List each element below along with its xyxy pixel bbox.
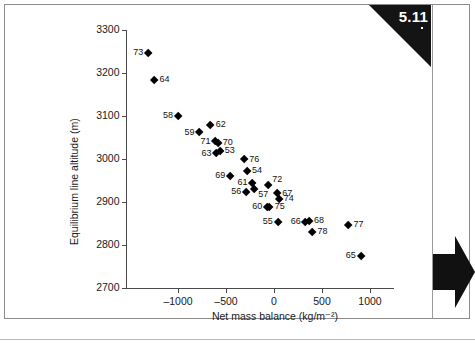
diamond-marker-icon bbox=[243, 167, 252, 176]
diamond-marker-icon bbox=[206, 120, 215, 129]
data-point-label: 63 bbox=[201, 149, 211, 158]
x-axis-title: Net mass balance (kg/m⁻²) bbox=[145, 310, 405, 322]
diamond-marker-icon bbox=[273, 218, 282, 227]
x-axis-line bbox=[126, 288, 395, 289]
data-point-label: 58 bbox=[163, 111, 173, 120]
data-point-label: 56 bbox=[231, 187, 241, 196]
y-tick-label-2700: 2700 bbox=[78, 281, 120, 293]
x-tick-label-0: 0 bbox=[249, 295, 299, 307]
x-tick--1000 bbox=[178, 289, 179, 293]
data-point-label: 57 bbox=[258, 190, 268, 199]
data-point-label: 78 bbox=[317, 227, 327, 236]
y-axis-title: Equilibrium line altitude (m) bbox=[68, 118, 80, 245]
diamond-marker-icon bbox=[344, 221, 353, 230]
y-axis-line bbox=[126, 30, 127, 289]
data-point-label: 65 bbox=[346, 251, 356, 260]
x-tick-1000 bbox=[370, 289, 371, 293]
data-point-label: 62 bbox=[216, 120, 226, 129]
y-tick-label-3200: 3200 bbox=[78, 66, 120, 78]
data-point-label: 69 bbox=[215, 171, 225, 180]
y-tick-label-2900: 2900 bbox=[78, 195, 120, 207]
y-tick-2800 bbox=[122, 245, 126, 246]
y-tick-3100 bbox=[122, 116, 126, 117]
diamond-marker-icon bbox=[150, 76, 159, 85]
x-tick-label-500: 500 bbox=[297, 295, 347, 307]
y-tick-label-3300: 3300 bbox=[78, 23, 120, 35]
diamond-marker-icon bbox=[173, 111, 182, 120]
y-tick-2900 bbox=[122, 202, 126, 203]
y-tick-label-3100: 3100 bbox=[78, 109, 120, 121]
y-tick-3000 bbox=[122, 159, 126, 160]
data-point-label: 74 bbox=[284, 194, 294, 203]
data-point-label: 60 bbox=[252, 202, 262, 211]
figure-page: 5.11 Equilibrium line altitude (m) Net m… bbox=[0, 0, 475, 354]
data-point-label: 72 bbox=[272, 175, 282, 184]
x-tick-0 bbox=[274, 289, 275, 293]
data-point-label: 73 bbox=[133, 48, 143, 57]
y-tick-2700 bbox=[122, 288, 126, 289]
x-tick-label--500: –500 bbox=[201, 295, 251, 307]
data-point-label: 68 bbox=[314, 216, 324, 225]
x-tick-label--1000: –1000 bbox=[153, 295, 203, 307]
diamond-marker-icon bbox=[144, 48, 153, 57]
data-point-label: 54 bbox=[252, 166, 262, 175]
x-tick-500 bbox=[322, 289, 323, 293]
x-tick--500 bbox=[226, 289, 227, 293]
diamond-marker-icon bbox=[226, 171, 235, 180]
data-point-label: 55 bbox=[263, 217, 273, 226]
data-point-label: 77 bbox=[353, 220, 363, 229]
y-tick-3200 bbox=[122, 73, 126, 74]
diamond-marker-icon bbox=[308, 227, 317, 236]
data-point-label: 71 bbox=[200, 137, 210, 146]
data-point-label: 64 bbox=[159, 75, 169, 84]
data-point-label: 76 bbox=[249, 155, 259, 164]
diamond-marker-icon bbox=[240, 155, 249, 164]
y-tick-label-2800: 2800 bbox=[78, 238, 120, 250]
data-point-label: 66 bbox=[291, 217, 301, 226]
data-point-label: 75 bbox=[275, 202, 285, 211]
scatter-plot: Equilibrium line altitude (m) Net mass b… bbox=[0, 0, 475, 354]
data-point-label: 59 bbox=[185, 128, 195, 137]
diamond-marker-icon bbox=[356, 251, 365, 260]
y-tick-3300 bbox=[122, 30, 126, 31]
data-point-label: 53 bbox=[225, 146, 235, 155]
x-tick-label-1000: 1000 bbox=[345, 295, 395, 307]
y-tick-label-3000: 3000 bbox=[78, 152, 120, 164]
